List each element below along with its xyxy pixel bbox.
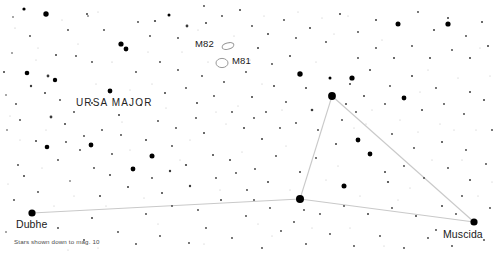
faint-star	[166, 108, 167, 109]
star	[30, 85, 32, 87]
star	[223, 81, 225, 83]
star	[55, 54, 57, 56]
star	[295, 122, 297, 124]
faint-star	[158, 224, 159, 225]
star	[423, 177, 425, 179]
star	[6, 129, 8, 131]
star	[447, 167, 449, 169]
star	[483, 99, 485, 101]
star-label-muscida: Muscida	[443, 229, 483, 240]
star	[441, 205, 443, 207]
star	[175, 127, 177, 129]
star	[87, 15, 89, 17]
star	[396, 22, 401, 27]
faint-star	[198, 30, 199, 31]
faint-star	[420, 92, 421, 93]
star	[469, 179, 471, 181]
constellation-line	[300, 199, 474, 222]
star-label-dubhe: Dubhe	[16, 219, 47, 230]
star	[189, 185, 191, 187]
faint-star	[490, 76, 491, 77]
star	[124, 47, 129, 52]
star	[89, 143, 94, 148]
star	[246, 189, 248, 191]
star	[451, 49, 453, 51]
star	[168, 14, 171, 17]
star	[455, 213, 457, 215]
star	[171, 145, 173, 147]
star	[93, 167, 95, 169]
faint-star	[480, 48, 481, 49]
star	[231, 111, 233, 113]
dso-label-m82: M82	[195, 39, 214, 49]
faint-star	[180, 160, 181, 161]
star	[369, 69, 371, 71]
faint-star	[398, 200, 399, 201]
star	[221, 15, 223, 17]
star	[357, 57, 359, 59]
faint-star	[478, 196, 479, 197]
faint-star	[14, 27, 15, 28]
star	[489, 207, 491, 209]
star	[391, 133, 393, 135]
star	[253, 117, 255, 119]
star	[150, 154, 155, 159]
star	[469, 57, 471, 59]
star	[220, 199, 222, 201]
star	[311, 109, 314, 112]
star	[231, 237, 233, 239]
star	[245, 215, 247, 217]
star	[37, 191, 39, 193]
faint-star	[130, 150, 131, 151]
faint-star	[418, 132, 419, 133]
faint-star	[272, 236, 273, 237]
star	[177, 37, 179, 39]
star	[57, 159, 59, 161]
star	[101, 129, 103, 131]
star	[127, 186, 129, 188]
sky-canvas	[0, 0, 497, 255]
star	[137, 21, 139, 23]
star	[17, 164, 19, 166]
star	[185, 164, 187, 166]
star	[235, 172, 237, 174]
star	[111, 153, 113, 155]
star	[196, 102, 198, 104]
star	[13, 199, 15, 201]
star	[297, 71, 302, 76]
star	[411, 75, 413, 77]
faint-star	[8, 184, 9, 185]
star	[50, 116, 53, 119]
star	[355, 111, 357, 113]
faint-star	[62, 20, 63, 21]
star	[65, 141, 67, 143]
faint-star	[106, 206, 107, 207]
star	[280, 230, 282, 232]
star	[343, 205, 345, 207]
star	[375, 19, 377, 21]
magnitude-footnote: Stars shown down to mag. 10	[14, 238, 100, 245]
faint-star	[38, 48, 39, 49]
star	[349, 83, 351, 85]
faint-star	[492, 182, 493, 183]
faint-star	[476, 130, 477, 131]
star	[229, 159, 231, 161]
faint-star	[46, 130, 47, 131]
faint-star	[462, 160, 463, 161]
star	[325, 41, 327, 43]
star	[239, 9, 241, 11]
star	[43, 11, 48, 16]
star	[177, 69, 179, 71]
star	[11, 52, 13, 54]
star	[131, 167, 136, 172]
star	[213, 95, 215, 97]
faint-star	[440, 124, 441, 125]
faint-star	[111, 61, 112, 62]
faint-star	[360, 196, 361, 197]
star	[275, 155, 277, 157]
faint-star	[152, 84, 153, 85]
star	[91, 217, 93, 219]
faint-star	[190, 140, 191, 141]
faint-star	[98, 248, 99, 249]
star	[157, 120, 159, 122]
